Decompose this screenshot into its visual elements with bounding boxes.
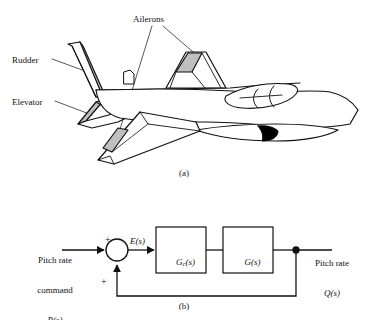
rudder-label: Rudder — [12, 55, 39, 65]
caption-a: (a) — [0, 168, 368, 178]
figure-root: Rudder Elevator Ailerons (a) — [0, 0, 368, 320]
input-signal-label: R(s) — [24, 315, 86, 320]
output-signal-label: Q(s) — [300, 288, 364, 298]
aircraft-transfer-function: G(s) — [223, 247, 273, 277]
pitch-rate-command-line1: Pitch rate — [24, 255, 86, 265]
summing-sign-top: + — [105, 235, 111, 245]
pitch-rate-command-line2: command — [24, 285, 86, 295]
error-signal-label: E(s) — [130, 236, 145, 246]
aircraft-illustration-panel: Rudder Elevator Ailerons — [0, 0, 368, 195]
controller-transfer-function: Gc(s) — [156, 247, 206, 279]
ailerons-label: Ailerons — [133, 14, 164, 24]
caption-b: (b) — [0, 301, 368, 311]
summing-sign-bottom: + — [101, 277, 107, 287]
elevator-label: Elevator — [12, 97, 43, 107]
aircraft-drawing — [0, 0, 368, 195]
pitch-rate-output-line1: Pitch rate — [300, 258, 364, 268]
dorsal-bump — [124, 70, 134, 84]
